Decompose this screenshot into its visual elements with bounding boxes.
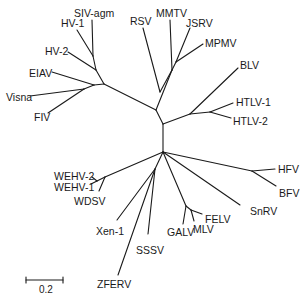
label-fiv: FIV <box>34 111 50 123</box>
label-wdsv: WDSV <box>74 195 106 207</box>
label-snrv: SnRV <box>250 205 277 217</box>
branch-rsv <box>143 28 160 92</box>
branch-bfv <box>252 171 276 186</box>
phylogenetic-tree: SIV-agm HV-1 HV-2 EIAV Visna FIV RSV MMT… <box>0 0 303 297</box>
branch-htlv-trunk <box>163 114 190 124</box>
label-wehv1: WEHV-1 <box>54 181 94 193</box>
branch-htlv1 <box>210 103 233 112</box>
label-hfv: HFV <box>278 163 299 175</box>
branch-felv <box>191 210 202 214</box>
branch-lenti-node-a <box>96 70 104 84</box>
branch-beta-node <box>160 70 172 92</box>
branch-htlv-pair-node <box>190 112 210 114</box>
label-htlv2: HTLV-2 <box>233 115 268 127</box>
label-xen1: Xen-1 <box>96 225 124 237</box>
label-mpmv: MPMV <box>205 37 237 49</box>
branch-mlv-felv-node <box>186 206 191 210</box>
label-blv: BLV <box>240 59 259 71</box>
branch-eiav <box>52 72 94 85</box>
label-hv1: HV-1 <box>61 17 85 29</box>
branch-lenti-to-core <box>104 84 156 110</box>
label-mlv: MLV <box>193 223 214 235</box>
branch-hv1 <box>77 30 93 56</box>
label-htlv1: HTLV-1 <box>236 96 271 108</box>
branch-hfv <box>252 169 275 171</box>
label-sssv: SSSV <box>136 244 164 256</box>
scale-bar-label: 0.2 <box>39 284 53 295</box>
branch-visna-fiv-node <box>84 85 94 89</box>
branch-jsrv-mpmv-node <box>172 62 176 70</box>
label-visna: Visna <box>6 91 32 103</box>
label-rsv: RSV <box>130 15 152 27</box>
label-hv2: HV-2 <box>45 45 69 57</box>
label-bfv: BFV <box>279 187 299 199</box>
label-galv: GALV <box>167 226 194 238</box>
scale-bar: 0.2 <box>26 277 63 295</box>
branch-galv <box>183 206 186 224</box>
branch-mmtv <box>170 20 172 70</box>
label-jsrv: JSRV <box>186 17 213 29</box>
branch-htlv2 <box>210 112 231 118</box>
label-zferv: ZFERV <box>97 278 131 290</box>
branch-xen1 <box>117 169 155 220</box>
branch-siv-agm <box>92 20 93 56</box>
label-eiav: EIAV <box>29 67 52 79</box>
branch-core-to-beta-node <box>156 70 172 110</box>
label-mmtv: MMTV <box>156 7 187 19</box>
branch-mlv <box>191 210 194 221</box>
branch-lenti-node-b <box>94 84 104 85</box>
branch-blv <box>190 68 238 114</box>
branch-core-to-htlv-node <box>156 110 163 124</box>
